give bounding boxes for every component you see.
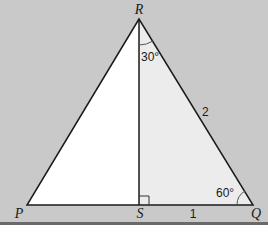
vertex-label-P: P [14, 206, 24, 221]
angle-label-60: 60° [216, 186, 234, 200]
triangle-diagram: R P S Q 30° 60° 2 1 [0, 0, 268, 239]
angle-label-30: 30° [141, 50, 159, 64]
vertex-label-Q: Q [251, 206, 261, 221]
bottom-rule [0, 222, 268, 225]
diagram-svg: R P S Q 30° 60° 2 1 [0, 0, 268, 239]
vertex-label-R: R [134, 2, 144, 17]
vertex-label-S: S [137, 206, 144, 221]
side-label-RQ: 2 [202, 105, 209, 119]
side-label-SQ: 1 [190, 207, 197, 221]
